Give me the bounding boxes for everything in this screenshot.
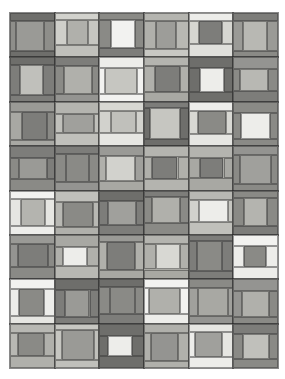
block-top-band xyxy=(233,13,278,21)
block-left-strip xyxy=(233,69,240,91)
block-left-strip xyxy=(55,154,66,182)
block-left-strip xyxy=(99,111,111,133)
block-top-band xyxy=(10,146,55,158)
block-bottom-band xyxy=(189,357,234,368)
block-bottom-band xyxy=(55,266,100,279)
block-center-square xyxy=(150,108,180,139)
block-left-strip xyxy=(144,197,152,223)
block-right-strip xyxy=(180,244,189,269)
block-top-band xyxy=(55,324,100,331)
block-top-band xyxy=(144,57,189,66)
block-center-square xyxy=(240,69,268,91)
quilt-block xyxy=(55,57,100,101)
block-right-strip xyxy=(44,21,54,51)
block-left-strip xyxy=(189,68,201,92)
quilt-block xyxy=(10,191,55,235)
block-right-strip xyxy=(90,290,100,317)
quilt-block xyxy=(144,146,189,190)
block-top-band xyxy=(10,102,55,112)
quilt-block xyxy=(144,191,189,235)
quilt-block xyxy=(99,235,144,279)
block-top-band xyxy=(55,235,100,247)
block-left-strip xyxy=(144,157,152,179)
block-bottom-band xyxy=(99,48,144,57)
block-center-square xyxy=(197,241,222,271)
quilt-grid xyxy=(10,13,278,368)
block-left-strip xyxy=(10,289,19,316)
block-top-band xyxy=(233,57,278,69)
block-center-square xyxy=(66,154,89,182)
block-left-strip xyxy=(233,21,242,51)
block-left-strip xyxy=(189,158,200,178)
block-bottom-band xyxy=(233,184,278,191)
block-center-square xyxy=(19,289,44,316)
quilt-block xyxy=(10,102,55,146)
quilt-block xyxy=(189,235,234,279)
quilt-block xyxy=(99,279,144,323)
block-left-strip xyxy=(10,333,18,356)
block-right-strip xyxy=(224,68,233,92)
block-left-strip xyxy=(55,66,64,94)
quilt-block xyxy=(55,279,100,323)
block-right-strip xyxy=(270,113,278,139)
block-right-strip xyxy=(136,111,144,133)
block-bottom-band xyxy=(55,360,100,368)
block-top-band xyxy=(99,102,144,111)
block-center-square xyxy=(108,201,136,225)
block-right-strip xyxy=(226,111,233,134)
block-center-square xyxy=(244,246,266,267)
block-bottom-band xyxy=(99,225,144,235)
quilt-block xyxy=(55,191,100,235)
block-center-square xyxy=(22,112,47,140)
block-bottom-band xyxy=(144,92,189,101)
block-top-band xyxy=(233,146,278,154)
quilt-block xyxy=(233,191,278,235)
block-right-strip xyxy=(45,199,54,227)
block-center-square xyxy=(63,202,93,227)
quilt-block xyxy=(189,13,234,57)
block-top-band xyxy=(99,324,144,336)
block-center-square xyxy=(199,21,222,44)
block-center-square xyxy=(111,111,136,133)
block-center-square xyxy=(111,20,135,48)
block-top-band xyxy=(10,191,55,199)
block-bottom-band xyxy=(10,226,55,234)
block-center-square xyxy=(149,288,180,314)
block-left-strip xyxy=(144,66,155,92)
quilt-block xyxy=(233,102,278,146)
quilt-block xyxy=(189,279,234,323)
block-top-band xyxy=(144,102,189,109)
block-left-strip xyxy=(55,247,63,267)
block-bottom-band xyxy=(55,45,100,58)
block-left-strip xyxy=(99,336,108,357)
block-center-square xyxy=(107,242,134,270)
block-left-strip xyxy=(189,241,197,271)
block-center-square xyxy=(108,336,132,357)
block-bottom-band xyxy=(233,51,278,58)
block-top-band xyxy=(233,191,278,198)
block-center-square xyxy=(198,288,227,316)
block-top-band xyxy=(189,191,234,201)
block-bottom-band xyxy=(55,227,100,235)
block-right-strip xyxy=(224,158,234,178)
block-bottom-band xyxy=(10,356,55,368)
block-center-square xyxy=(18,244,48,267)
block-right-strip xyxy=(47,112,55,140)
quilt-block xyxy=(233,57,278,101)
quilt-block xyxy=(233,13,278,57)
block-center-square xyxy=(152,197,180,223)
quilt-block xyxy=(10,279,55,323)
quilt-block xyxy=(55,146,100,190)
block-top-band xyxy=(233,102,278,114)
block-left-strip xyxy=(189,288,199,316)
block-bottom-band xyxy=(189,316,234,324)
block-bottom-band xyxy=(99,270,144,279)
block-top-band xyxy=(10,279,55,288)
block-bottom-band xyxy=(10,179,55,190)
block-right-strip xyxy=(89,154,100,182)
block-left-strip xyxy=(55,114,63,134)
block-left-strip xyxy=(10,244,18,267)
quilt-block xyxy=(10,57,55,101)
block-bottom-band xyxy=(189,271,234,279)
block-left-strip xyxy=(10,112,22,140)
